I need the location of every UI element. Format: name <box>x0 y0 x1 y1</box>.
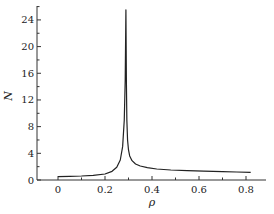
y-tick-label: 16 <box>21 68 34 79</box>
x-axis-label: ρ <box>148 196 156 209</box>
y-tick-label: 4 <box>28 148 34 159</box>
x-tick-label: 0.4 <box>144 184 160 195</box>
y-axis-label: N <box>2 91 15 102</box>
y-tick-label: 0 <box>28 175 34 186</box>
x-tick-label: 0.8 <box>238 184 254 195</box>
y-tick-label: 24 <box>21 14 34 25</box>
x-axis: 00.20.40.60.8 <box>37 176 266 195</box>
line-chart: 04812162024 00.20.40.60.8 ρ N <box>0 0 274 214</box>
y-axis: 04812162024 <box>21 6 41 186</box>
data-series-line <box>58 10 251 177</box>
y-tick-label: 20 <box>21 41 34 52</box>
x-tick-label: 0.6 <box>191 184 207 195</box>
x-tick-label: 0.2 <box>97 184 113 195</box>
y-tick-label: 12 <box>21 94 34 105</box>
y-tick-label: 8 <box>28 121 34 132</box>
x-tick-label: 0 <box>55 184 61 195</box>
